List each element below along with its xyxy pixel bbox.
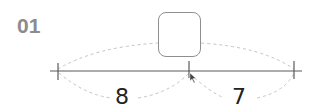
bottom-arc-left-b [138,73,189,98]
bottom-arc-right-b [257,73,294,98]
bottom-arc-left-a [59,73,112,98]
top-arc-right [201,43,294,69]
segment-brace-arcs [59,73,294,98]
top-arc-left [58,43,158,69]
mouse-cursor-icon [190,73,196,83]
right-segment-length: 7 [232,86,246,108]
left-segment-length: 8 [115,86,129,108]
answer-input-box[interactable] [158,12,201,57]
